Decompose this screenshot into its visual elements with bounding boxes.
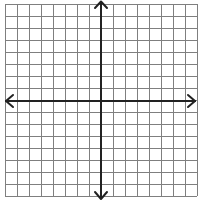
coordinate-plane [0, 0, 200, 201]
